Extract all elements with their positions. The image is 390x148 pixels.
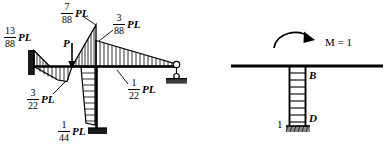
column-fixed-support-icon bbox=[88, 128, 107, 134]
leader-3-88 bbox=[99, 30, 113, 41]
label-13-88-pl: 13 88 PL bbox=[4, 26, 31, 49]
figure-canvas: 13 88 PL 7 88 PL 3 88 PL 3 22 PL 1 22 PL bbox=[0, 0, 390, 148]
unit-pl: PL bbox=[140, 84, 155, 95]
label-1-22-pl: 1 22 PL bbox=[128, 78, 155, 101]
left-fixed-support-icon bbox=[28, 50, 34, 75]
unit-moment-load-case bbox=[220, 0, 390, 148]
label-joint-b: B bbox=[309, 70, 316, 81]
leader-3-22 bbox=[53, 81, 66, 94]
moment-lobe-column bbox=[81, 67, 95, 125]
label-moment-m-equals-1: M = 1 bbox=[325, 37, 352, 48]
label-point-load-p: P bbox=[63, 38, 70, 49]
column-member bbox=[290, 67, 306, 126]
moment-lobe-right-span bbox=[96, 41, 176, 67]
unit-pl: PL bbox=[16, 32, 31, 43]
fraction-1-44: 1 44 bbox=[58, 120, 70, 143]
fraction-7-88: 7 88 bbox=[61, 2, 73, 25]
unit-pl: PL bbox=[125, 19, 140, 30]
moment-lobe-peak bbox=[72, 25, 96, 67]
fraction-3-88: 3 88 bbox=[113, 13, 125, 36]
unit-pl: PL bbox=[70, 126, 85, 137]
moment-lobe-under-load bbox=[34, 67, 72, 82]
unit-pl: PL bbox=[73, 8, 88, 19]
moment-lobe-left-support bbox=[34, 51, 50, 67]
fraction-1-22: 1 22 bbox=[128, 78, 140, 101]
label-1-44-pl: 1 44 PL bbox=[58, 120, 85, 143]
fraction-13-88: 13 88 bbox=[4, 26, 16, 49]
bending-moment-diagram bbox=[0, 0, 220, 148]
label-3-88-pl: 3 88 PL bbox=[113, 13, 140, 36]
label-3-22-pl: 3 22 PL bbox=[27, 88, 54, 111]
right-roller-support-icon bbox=[166, 61, 187, 83]
label-member-length-1: 1 bbox=[277, 119, 283, 130]
fraction-3-22: 3 22 bbox=[27, 88, 39, 111]
moment-arrow-icon bbox=[274, 32, 315, 49]
unit-pl: PL bbox=[39, 94, 54, 105]
label-joint-d: D bbox=[309, 113, 317, 124]
fixed-support-icon bbox=[286, 126, 310, 132]
label-7-88-pl: 7 88 PL bbox=[61, 2, 88, 25]
leader-1-22 bbox=[117, 70, 128, 84]
